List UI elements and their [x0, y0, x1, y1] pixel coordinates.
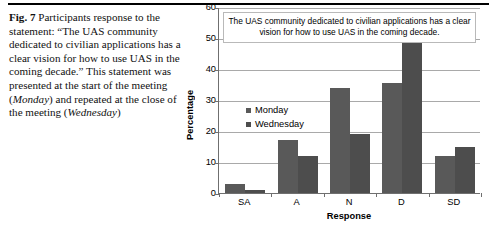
bar-d-monday — [382, 83, 402, 193]
bar-d-wednesday — [402, 32, 422, 193]
y-axis-tickmark — [215, 8, 219, 9]
top-divider — [8, 3, 489, 5]
y-axis-tickmark — [215, 70, 219, 71]
x-axis-tick-label: A — [293, 197, 299, 208]
x-axis-tick-labels: SAANDSD — [218, 197, 480, 211]
legend-item[interactable]: Wednesday — [246, 118, 304, 131]
chart-legend: MondayWednesday — [246, 104, 304, 132]
x-axis-tick-label: SD — [447, 197, 460, 208]
bar-chart: Percentage 0102030405060 The UAS communi… — [186, 8, 492, 224]
gridline — [219, 70, 480, 71]
x-axis-tickmark — [481, 193, 482, 197]
x-axis-title: Response — [218, 211, 480, 221]
bar-n-wednesday — [350, 134, 370, 193]
caption-italic-monday: Monday — [13, 93, 49, 105]
plot-area: The UAS community dedicated to civilian … — [218, 8, 480, 194]
bar-a-wednesday — [298, 156, 318, 193]
legend-label: Wednesday — [255, 120, 304, 129]
gridline — [219, 8, 480, 9]
figure-number: Fig. 7 — [9, 11, 36, 23]
y-axis-tickmark — [215, 39, 219, 40]
figure-caption: Fig. 7 Participants response to the stat… — [9, 11, 185, 120]
bar-n-monday — [330, 88, 350, 193]
caption-text-part-3: ) — [117, 106, 121, 118]
x-axis-tick-label: D — [398, 197, 405, 208]
legend-swatch-icon — [246, 122, 251, 127]
x-axis-tick-label: N — [346, 197, 353, 208]
y-axis-tickmark — [215, 132, 219, 133]
legend-item[interactable]: Monday — [246, 104, 304, 117]
chart-title: The UAS community dedicated to civilian … — [223, 12, 476, 43]
bar-a-monday — [278, 140, 298, 193]
y-axis-tick-labels: 0102030405060 — [194, 8, 216, 194]
x-axis-tick-label: SA — [238, 197, 250, 208]
legend-swatch-icon — [246, 108, 251, 113]
y-axis-tickmark — [215, 163, 219, 164]
bar-sd-wednesday — [455, 147, 475, 194]
y-axis-tickmark — [215, 101, 219, 102]
bar-sa-wednesday — [245, 190, 265, 193]
legend-label: Monday — [255, 106, 288, 115]
bar-sa-monday — [225, 184, 245, 193]
bar-sd-monday — [435, 156, 455, 193]
figure-page: Fig. 7 Participants response to the stat… — [0, 0, 497, 231]
caption-text-part-1: Participants response to the statement: … — [9, 11, 181, 105]
caption-italic-wednesday: Wednesday — [68, 106, 118, 118]
